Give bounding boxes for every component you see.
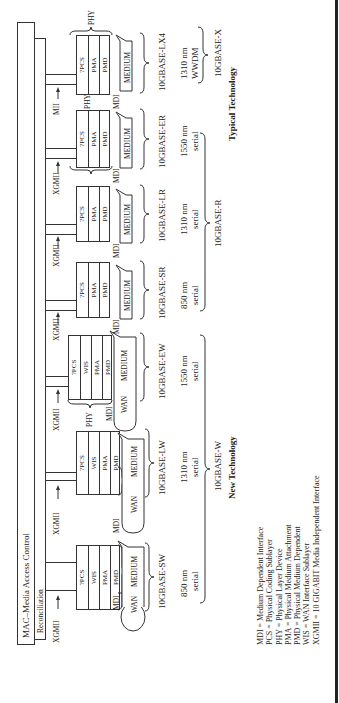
sublayer-pmd: PMD — [99, 263, 110, 317]
phy-brace-icon — [68, 23, 114, 37]
connector-line — [45, 234, 76, 235]
brace-icon — [140, 109, 150, 169]
wan-medium-shape — [112, 329, 138, 433]
legend-item: PMA = Physical Medium Attachment — [284, 475, 293, 645]
connector-line — [45, 472, 76, 473]
phy-label: PHY — [84, 94, 92, 109]
mode-label: serial — [191, 458, 200, 478]
brace-icon — [140, 33, 150, 93]
medium-label: MEDIUM — [124, 128, 132, 159]
brace-icon — [140, 185, 150, 243]
wan-medium-shape — [120, 539, 146, 643]
arrow-icon — [56, 312, 60, 324]
sublayer-pcs: ?PCS — [77, 187, 88, 241]
sublayer-wis: WIS — [80, 336, 91, 399]
connector-line — [45, 562, 76, 563]
wavelength-label: 1310 nm — [180, 203, 189, 235]
legend-item: WIS = WAN Interface Sublayer — [302, 475, 311, 645]
wavelength-label: 1550 nm — [180, 125, 189, 157]
legend-item: XGMII = 10 GIGABIT Media Independent Int… — [312, 475, 321, 645]
wavelength-label: 1310 nm — [180, 47, 189, 79]
connector-line — [45, 310, 76, 311]
wan-label: WAN — [131, 596, 139, 613]
medium-label: MEDIUM — [124, 204, 132, 235]
medium-label: MEDIUM — [131, 556, 139, 587]
mode-label: serial — [191, 572, 200, 592]
diagram-10gbe-architecture: MAC–Media Access Control Reconciliation … — [0, 0, 339, 703]
sublayer-stack: ?PCS PMA PMD — [76, 35, 110, 95]
mac-layer-box: MAC–Media Access Control — [17, 22, 35, 645]
sublayer-pma: PMA — [88, 263, 99, 317]
sublayer-stack: ?PCS WIS PMA PMD — [76, 431, 120, 495]
group-label-10gbase-x: 10GBASE-X — [214, 29, 223, 77]
medium-label: MEDIUM — [121, 350, 129, 381]
sublayer-pcs: ?PCS — [69, 336, 80, 399]
standard-name: 10GBASE-EW — [158, 344, 167, 400]
connector-line — [45, 590, 76, 591]
connector-line — [45, 158, 76, 159]
sublayer-pma: PMA — [88, 187, 99, 241]
group-brace-r — [200, 131, 212, 311]
sublayer-pcs: ?PCS — [77, 432, 88, 494]
medium-label: MEDIUM — [124, 280, 132, 311]
sublayer-stack: ?PCS PMA PMD — [76, 262, 110, 318]
sublayer-pmd: PMD — [99, 36, 110, 94]
connector-line — [45, 148, 76, 149]
legend-item: MDI = Medium Dependent Interface — [256, 475, 265, 645]
brace-icon — [145, 543, 155, 611]
legend-item: PMD = Physical Medium Dependent — [293, 475, 302, 645]
group-brace-x — [198, 27, 210, 83]
arrow-icon — [56, 485, 60, 499]
xgmii-label: XGMII — [53, 513, 61, 536]
arrow-icon — [56, 389, 60, 403]
brace-icon — [140, 261, 150, 319]
standard-name: 10GBASE-SW — [158, 554, 167, 609]
mode-label: serial — [191, 286, 200, 306]
standard-name: 10GBASE-ER — [158, 115, 167, 168]
standard-name: 10GBASE-LR — [158, 189, 167, 242]
medium-label: MEDIUM — [124, 52, 132, 83]
group-label-10gbase-r: 10GBASE-R — [214, 199, 223, 247]
mode-label: serial — [191, 210, 200, 230]
mii-label: MII — [53, 103, 61, 115]
wan-label: WAN — [121, 396, 129, 413]
arrow-icon — [56, 236, 60, 248]
sublayer-stack: ?PCS WIS PMA PMD — [68, 335, 112, 400]
medium-label: MEDIUM — [131, 446, 139, 477]
sublayer-pmd: PMD — [99, 111, 110, 167]
legend-item: PCS = Physical Coding Sublayer — [265, 475, 274, 645]
mdi-label: MDI — [113, 243, 121, 258]
sublayer-pma: PMA — [99, 546, 110, 609]
sublayer-pma: PMA — [88, 111, 99, 167]
wavelength-label: 1550 nm — [180, 355, 189, 387]
phy-label: PHY — [88, 10, 96, 25]
wavelength-label: 1310 nm — [180, 451, 189, 483]
sublayer-wis: WIS — [88, 432, 99, 494]
legend-item: PHY = Physical Layer Device — [275, 475, 284, 645]
mdi-label: MDI — [113, 319, 121, 334]
sublayer-pcs: ?PCS — [77, 546, 88, 609]
sublayer-pma: PMA — [88, 36, 99, 94]
sublayer-pma: PMA — [99, 432, 110, 494]
connector-line — [45, 480, 76, 481]
sublayer-pmd: PMD — [99, 187, 110, 241]
connector-line — [45, 74, 76, 75]
connector-line — [45, 224, 76, 225]
standard-name: 10GBASE-LX4 — [158, 33, 167, 91]
wavelength-label: 850 nm — [180, 570, 189, 597]
sublayer-stack: ?PCS PMA PMD — [76, 186, 110, 242]
group-brace-w — [200, 333, 212, 603]
brace-icon — [145, 429, 155, 497]
phy-brace-icon — [68, 164, 114, 178]
arrow-icon — [56, 595, 60, 609]
connector-line — [45, 300, 76, 301]
sublayer-stack: ?PCS PMA PMD — [76, 110, 110, 168]
xgmii-label: XGMII — [53, 621, 61, 644]
reconciliation-layer-box: Reconciliation — [34, 38, 46, 640]
mac-layer-label: MAC–Media Access Control — [22, 533, 31, 638]
mdi-label: MDI — [113, 168, 121, 183]
xgmii-label: XGMII — [53, 173, 61, 196]
xgmii-label: XGMII — [53, 409, 61, 432]
mode-label: serial — [191, 132, 200, 152]
group-label-10gbase-w: 10GBASE-W — [214, 441, 223, 491]
